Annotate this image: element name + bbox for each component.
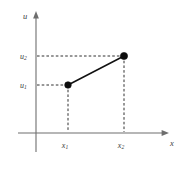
y-tick-label-u1: u1 <box>20 81 27 90</box>
data-segment <box>68 56 124 85</box>
x-tick-label-x1: x1 <box>61 141 69 150</box>
linear-interpolation-chart: u x u2 u1 x1 x2 <box>0 0 184 171</box>
x-tick-x1-subscript: 1 <box>65 144 68 150</box>
data-point-1 <box>65 82 72 89</box>
y-tick-label-u2: u2 <box>20 52 27 61</box>
data-point-2 <box>120 52 127 59</box>
figure-container: u x u2 u1 x1 x2 <box>0 0 184 171</box>
y-axis-label: u <box>23 11 27 21</box>
y-axis-arrow-icon <box>33 11 39 18</box>
x-tick-x2-subscript: 2 <box>121 144 124 150</box>
x-axis-arrow-icon <box>162 130 169 136</box>
y-tick-u1-subscript: 1 <box>24 84 27 90</box>
y-tick-u2-subscript: 2 <box>24 55 27 61</box>
x-tick-label-x2: x2 <box>117 141 125 150</box>
x-axis-label: x <box>169 138 174 148</box>
